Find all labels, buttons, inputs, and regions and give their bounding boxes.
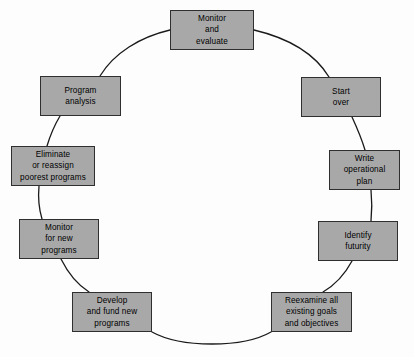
node-label: Monitorandevaluate: [194, 13, 230, 47]
node-develop-and-fund[interactable]: Developand fund newprograms: [72, 292, 152, 332]
arc-monitor-and-evaluate-to-start-over: [254, 30, 329, 77]
arc-program-analysis-to-monitor-and-evaluate: [100, 30, 170, 76]
node-label: Startover: [330, 86, 352, 108]
node-label: Identifyfuturity: [342, 230, 373, 252]
node-label: Developand fund newprograms: [85, 295, 139, 329]
node-identify-futurity[interactable]: Identifyfuturity: [318, 221, 398, 261]
cycle-diagram: Monitorandevaluate Startover Writeoperat…: [0, 0, 414, 357]
node-label: Eliminateor reassignpoorest programs: [18, 149, 88, 183]
node-eliminate-or-reassign[interactable]: Eliminateor reassignpoorest programs: [11, 146, 95, 186]
arc-develop-and-fund-to-monitor-for-new: [61, 259, 89, 292]
arc-reexamine-goals-to-develop-and-fund: [152, 332, 271, 344]
node-reexamine-goals[interactable]: Reexamine allexisting goalsand objective…: [271, 292, 352, 332]
arc-write-operational-plan-to-identify-futurity: [371, 190, 372, 221]
arc-monitor-for-new-to-eliminate-or-reassign: [39, 186, 42, 219]
arc-eliminate-or-reassign-to-program-analysis: [47, 116, 60, 146]
node-write-operational-plan[interactable]: Writeoperationalplan: [329, 150, 400, 190]
node-monitor-for-new[interactable]: Monitorfor newprograms: [19, 219, 99, 259]
node-monitor-and-evaluate[interactable]: Monitorandevaluate: [170, 10, 254, 50]
arc-identify-futurity-to-reexamine-goals: [323, 261, 352, 292]
node-label: Programanalysis: [62, 85, 98, 107]
node-program-analysis[interactable]: Programanalysis: [40, 76, 121, 116]
node-label: Reexamine allexisting goalsand objective…: [283, 295, 341, 329]
node-label: Monitorfor newprograms: [39, 222, 78, 256]
arc-start-over-to-write-operational-plan: [352, 117, 365, 150]
node-start-over[interactable]: Startover: [301, 77, 381, 117]
node-label: Writeoperationalplan: [342, 153, 388, 187]
